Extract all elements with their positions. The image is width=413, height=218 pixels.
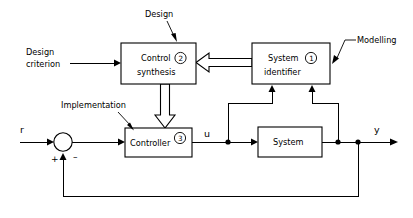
diagram-svg: Control synthesis 2 System identifier 1 … — [0, 0, 413, 218]
wire-design-criterion — [70, 60, 121, 67]
signal-label-y: y — [374, 124, 380, 135]
annotation-modelling: Modelling — [332, 35, 397, 64]
input-design-criterion-line1: Design — [26, 47, 54, 57]
block-control-synthesis-line1: Control — [141, 53, 171, 63]
block-controller-label: Controller — [130, 138, 171, 148]
block-system-identifier-line1: System — [268, 53, 299, 63]
wire-controller-to-system — [192, 139, 258, 146]
annotation-design: Design — [145, 9, 177, 42]
signal-label-u: u — [204, 128, 210, 139]
block-arrow-identifier-to-synthesis — [196, 53, 252, 72]
summing-junction-plus-sign: + — [51, 154, 59, 164]
block-system-identifier[interactable] — [252, 43, 330, 84]
block-system-identifier-line2: identifier — [264, 67, 301, 77]
wire-system-output — [322, 139, 398, 146]
signal-label-r: r — [20, 124, 24, 135]
block-control-synthesis[interactable] — [121, 43, 196, 84]
block-arrow-synthesis-to-controller — [155, 84, 175, 128]
annotation-modelling-label: Modelling — [357, 35, 397, 45]
wire-reference-input — [20, 139, 54, 146]
block-system-label: System — [273, 137, 304, 147]
summing-junction-minus-sign: – — [73, 152, 78, 162]
index-badge-3-label: 3 — [178, 134, 183, 143]
block-control-synthesis-line2: synthesis — [137, 67, 176, 77]
annotation-implementation: Implementation — [61, 100, 134, 131]
annotation-implementation-label: Implementation — [61, 100, 126, 110]
annotation-design-label: Design — [145, 9, 173, 19]
input-design-criterion-line2: criterion — [26, 59, 60, 69]
index-badge-2-label: 2 — [178, 54, 183, 63]
wire-error-to-controller — [72, 139, 125, 146]
summing-junction[interactable] — [54, 133, 72, 151]
block-diagram-canvas: Control synthesis 2 System identifier 1 … — [0, 0, 413, 218]
index-badge-1-label: 1 — [309, 54, 314, 63]
